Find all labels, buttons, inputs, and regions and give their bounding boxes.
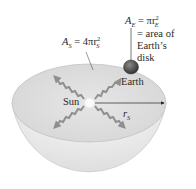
- earth-area-desc-3: disk: [137, 52, 155, 63]
- earth-label: Earth: [121, 76, 144, 87]
- sun-label: Sun: [63, 96, 79, 107]
- earth-area-desc-2: Earth’s: [137, 40, 167, 51]
- radius-sub: S: [127, 114, 130, 121]
- earth-area-desc-1: = area of: [137, 28, 174, 39]
- sun: [85, 98, 95, 108]
- earth-area-eq: = πr: [135, 15, 155, 26]
- earth-area-label: AE = πr2E: [125, 15, 159, 26]
- earth-area-sup: 2: [155, 14, 158, 21]
- sphere-area-sup: 2: [97, 35, 100, 42]
- sphere-area-sub2: S: [96, 42, 99, 49]
- radius-label: rS: [123, 108, 130, 119]
- sphere-area-label: AS = 4πr2S: [62, 36, 99, 47]
- sphere-area-eq: = 4πr: [72, 36, 97, 47]
